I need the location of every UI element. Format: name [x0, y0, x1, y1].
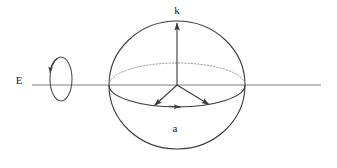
rotation-direction-arrow [50, 58, 57, 73]
vector-lower-right [177, 85, 209, 105]
sphere-vector-diagram: k a E [0, 0, 337, 168]
rotation-ellipse [50, 57, 72, 101]
equator-direction-arrow [169, 106, 181, 107]
vector-lower-left [155, 85, 178, 106]
figure-canvas: k a E [0, 0, 337, 168]
label-e: E [16, 74, 23, 86]
equator-front-arc-solid [109, 85, 245, 107]
label-k: k [174, 4, 180, 16]
label-a: a [173, 122, 178, 134]
